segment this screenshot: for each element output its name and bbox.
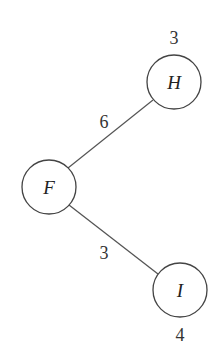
node-h-value: 3: [170, 28, 179, 48]
node-h-label: H: [166, 72, 182, 93]
node-i-value: 4: [176, 325, 185, 345]
edge-f-i: [69, 205, 158, 274]
tree-diagram: 6 3 H 3 F I 4: [0, 0, 222, 361]
edge-weight-f-h: 6: [100, 112, 109, 132]
node-f: F: [22, 160, 76, 214]
edge-f-h: [68, 100, 153, 168]
node-i: I: [153, 263, 207, 317]
edge-weight-f-i: 3: [100, 243, 109, 263]
node-f-label: F: [42, 177, 55, 198]
node-h: H: [147, 55, 201, 109]
